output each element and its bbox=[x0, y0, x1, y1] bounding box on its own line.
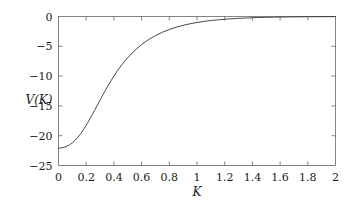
x-tick-label: 1.8 bbox=[299, 172, 317, 183]
y-tick-label: −25 bbox=[13, 160, 53, 171]
x-tick-label: 0 bbox=[55, 172, 62, 183]
y-tick-label: 0 bbox=[13, 11, 53, 22]
y-tick-label: −10 bbox=[13, 71, 53, 82]
x-tick-label: 0.8 bbox=[161, 172, 179, 183]
y-tick-label: −20 bbox=[13, 130, 53, 141]
x-tick-label: 0.2 bbox=[77, 172, 95, 183]
x-tick-label: 1.4 bbox=[244, 172, 262, 183]
x-axis-title: K bbox=[193, 186, 202, 198]
x-tick-label: 1.6 bbox=[271, 172, 289, 183]
chart-figure: 0−5−10−15−20−25 00.20.40.60.811.21.41.61… bbox=[0, 0, 356, 200]
x-tick-label: 0.4 bbox=[105, 172, 123, 183]
y-axis-title: V(K) bbox=[3, 94, 53, 106]
x-tick-label: 1 bbox=[194, 172, 201, 183]
x-tick-label: 0.6 bbox=[133, 172, 151, 183]
y-tick-label: −5 bbox=[13, 41, 53, 52]
x-tick-label: 2 bbox=[332, 172, 339, 183]
x-tick-label: 1.2 bbox=[216, 172, 234, 183]
